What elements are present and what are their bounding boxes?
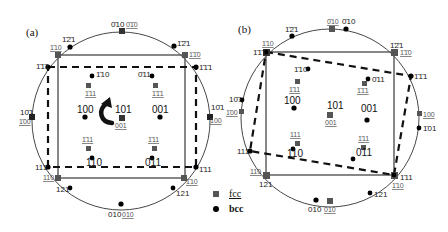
pole-label: 121 — [176, 189, 190, 198]
pole-label: 121 — [56, 185, 70, 194]
fcc-marker — [329, 26, 335, 32]
pole-label: 100 — [210, 117, 222, 124]
fcc-legend-marker — [213, 191, 219, 197]
pole-label: 101 — [115, 104, 132, 115]
panel-b-tag: (b) — [238, 23, 251, 36]
fcc-marker — [362, 81, 367, 86]
fcc-marker — [263, 172, 270, 179]
pole-label: 1̄11 — [358, 135, 369, 142]
pole-label: 1̄1̄1 — [199, 63, 213, 72]
bcc-marker — [157, 114, 162, 119]
bcc-marker — [193, 64, 198, 69]
panel-a-tag: (a) — [26, 26, 39, 39]
pole-label: 1̄2̄1 — [62, 35, 76, 44]
rotation-arrow-icon — [101, 97, 112, 123]
pole-label: 1̄00 — [19, 118, 31, 125]
bcc-marker — [67, 44, 72, 49]
fcc-marker — [152, 146, 157, 151]
bcc-marker — [171, 186, 176, 191]
pole-label: 0̄11 — [145, 157, 161, 168]
pole-label: 0̄10 — [111, 20, 125, 29]
pole-label: 001 — [361, 103, 378, 114]
pole-label: 001 — [115, 122, 127, 129]
fcc-marker — [391, 49, 398, 56]
fcc-marker — [295, 79, 300, 84]
bcc-marker — [351, 157, 356, 162]
pole-label: 1̄1̄1 — [414, 72, 428, 81]
pole-label: 1̄10 — [262, 40, 274, 47]
fcc-marker — [182, 52, 188, 58]
bcc-marker — [171, 43, 176, 48]
fcc-marker — [55, 52, 61, 58]
bcc-marker — [90, 74, 95, 79]
fcc-marker — [327, 198, 333, 204]
bcc-marker — [368, 191, 373, 196]
pole-label: 121 — [374, 190, 388, 199]
pole-label: 100 — [77, 104, 94, 115]
pole-label: 1̄10 — [50, 44, 62, 51]
pole-label: 10̄1 — [20, 108, 34, 117]
pole-label: 110 — [250, 168, 261, 175]
fcc-marker — [153, 83, 158, 88]
fcc-marker — [295, 141, 300, 146]
fcc-marker — [86, 146, 91, 151]
bcc-marker — [118, 201, 123, 206]
pole-label: 1̄2̄1 — [285, 25, 299, 34]
legend: fcc bcc — [213, 188, 244, 214]
pole-label: 1̄00 — [226, 109, 238, 116]
pole-label: 121 — [259, 180, 273, 189]
bcc-marker — [417, 126, 422, 131]
pole-label: 1̄11 — [148, 136, 159, 143]
pole-label: 010 — [324, 206, 336, 213]
bcc-marker — [313, 197, 318, 202]
pole-label: 100 — [423, 111, 435, 118]
pole-label: 1̄1̄1 — [36, 62, 50, 71]
pole-label: 010 — [122, 211, 134, 218]
pole-label: 1̄11 — [400, 173, 413, 182]
pole-label: 111 — [35, 163, 48, 172]
pole-label: 1̄10 — [96, 70, 110, 79]
pole-label: 1̄10 — [294, 65, 308, 74]
pole-label: 0̄1̄0 — [126, 21, 138, 28]
fcc-marker — [55, 175, 61, 181]
stereographic-projection-figure: (a) 0̄10 0̄1̄0 1̄2̄1 1̄2̄1 1̄10 1̄1̄0 1̄… — [0, 0, 448, 232]
bcc-marker — [289, 33, 294, 38]
bcc-marker — [366, 77, 371, 82]
pole-label: 1̄01 — [423, 124, 437, 133]
pole-label: 001 — [325, 119, 337, 126]
pole-label: 100 — [284, 95, 301, 106]
pole-label: 1̄1̄0 — [189, 51, 201, 58]
fcc-marker — [239, 109, 244, 114]
bcc-marker — [408, 73, 413, 78]
pole-label: 1̄11 — [85, 90, 96, 97]
pole-label: 0̄10 — [342, 17, 356, 26]
bcc-legend-label: bcc — [229, 203, 244, 214]
fcc-marker — [327, 112, 333, 118]
bcc-marker — [392, 173, 397, 178]
pole-label: 111 — [237, 147, 250, 156]
panel-a: (a) 0̄10 0̄1̄0 1̄2̄1 1̄2̄1 1̄10 1̄1̄0 1̄… — [19, 20, 225, 219]
pole-label: 10̄1 — [229, 95, 243, 104]
pole-label: 1̄10 — [392, 182, 404, 189]
pole-label: 10̄1 — [211, 103, 225, 112]
fcc-marker — [417, 111, 422, 116]
pole-label: 1̄1̄1 — [253, 48, 267, 57]
pole-label: 0̄10 — [327, 18, 339, 25]
bcc-marker — [82, 114, 87, 119]
bcc-marker — [364, 117, 369, 122]
pole-label: 1̄1̄1 — [357, 87, 369, 94]
bcc-marker — [343, 26, 348, 31]
pole-label: 110 — [287, 148, 303, 159]
fcc-marker — [86, 83, 91, 88]
pole-label: 1̄2̄1 — [177, 39, 191, 48]
pole-label: 0̄11 — [372, 75, 385, 84]
pole-label: 010 — [308, 205, 322, 214]
panel-b: (b) 0̄10 0̄10 1̄2̄1 1̄2̄1 1̄10 1̄1̄1 1̄1… — [226, 17, 437, 214]
pole-label: 101 — [327, 100, 344, 111]
pole-label: 001 — [152, 104, 169, 115]
fcc-legend-label: fcc — [229, 188, 242, 199]
pole-label: 011 — [356, 147, 372, 158]
pole-label: 1̄11 — [289, 86, 300, 93]
fcc-marker — [119, 115, 125, 121]
bcc-marker — [291, 105, 296, 110]
